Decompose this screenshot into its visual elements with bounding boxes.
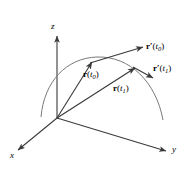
figure-canvas [0, 0, 189, 173]
position-vector-t0-label-paren-close: ) [96, 69, 99, 79]
tangent-vector-t1-arrow [133, 67, 153, 78]
position-vector-t1-label: r(t1) [113, 84, 129, 95]
tangent-vector-t0-label: r′(t0) [146, 42, 164, 53]
y-axis-label: y [172, 145, 176, 154]
tangent-vector-t1-label: r′(t1) [153, 64, 171, 75]
tangent-vector-t0-label-paren-close: ) [161, 41, 164, 51]
y-axis-line [57, 118, 166, 151]
tangent-vector-t0-arrow [90, 47, 143, 63]
x-axis [18, 118, 57, 150]
y-axis [57, 118, 166, 151]
position-vector-t1-label-paren-close: ) [126, 83, 129, 93]
z-axis-label: z [51, 22, 55, 31]
position-vector-t0-label: r(t0) [83, 70, 99, 81]
x-axis-line [18, 118, 57, 150]
tangent-vector-t1-label-paren-close: ) [168, 63, 171, 73]
x-axis-label: x [10, 151, 14, 160]
vector-function-figure: z x y r(t0) r(t1) r′(t0) r′(t1) [0, 0, 189, 173]
